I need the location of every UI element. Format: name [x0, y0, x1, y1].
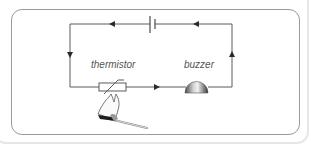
current-arrows: [67, 21, 235, 90]
arrow-up-icon: [229, 51, 235, 57]
lit-match-icon: [98, 94, 147, 128]
thermistor-icon: [99, 80, 126, 94]
buzzer-icon: [185, 82, 208, 94]
arrow-down-icon: [67, 52, 73, 58]
circuit-diagram: [0, 0, 316, 152]
arrow-left-icon: [193, 21, 199, 27]
buzzer-label: buzzer: [184, 59, 214, 70]
arrow-right-icon: [154, 84, 160, 90]
battery-cell-icon: [150, 16, 155, 33]
arrow-left-icon: [109, 21, 115, 27]
wires: [70, 24, 232, 87]
thermistor-label: thermistor: [91, 59, 135, 70]
